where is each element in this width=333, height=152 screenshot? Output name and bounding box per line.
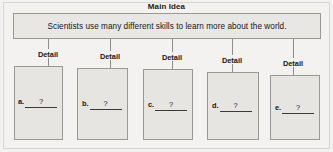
detail-entry-5[interactable]: e. ? bbox=[275, 103, 314, 114]
connector-stub-2 bbox=[110, 60, 111, 68]
connector-stub-4 bbox=[232, 64, 233, 72]
detail-entry-letter-2: b. bbox=[82, 99, 89, 108]
worksheet-page: Main Idea Scientists use many different … bbox=[0, 0, 333, 152]
detail-entry-1[interactable]: a. ? bbox=[18, 97, 57, 108]
connector-line-1 bbox=[48, 39, 49, 49]
detail-entry-2[interactable]: b. ? bbox=[82, 99, 122, 110]
detail-entry-letter-3: c. bbox=[148, 100, 154, 109]
detail-entry-3[interactable]: c. ? bbox=[148, 100, 187, 111]
detail-entry-letter-4: d. bbox=[212, 101, 219, 110]
connector-stub-5 bbox=[293, 67, 294, 75]
connector-stub-1 bbox=[48, 58, 49, 66]
detail-answer-blank-5[interactable]: ? bbox=[282, 103, 314, 114]
connector-line-5 bbox=[293, 39, 294, 58]
connector-line-3 bbox=[172, 39, 173, 52]
connector-stub-3 bbox=[172, 61, 173, 69]
connector-line-4 bbox=[232, 39, 233, 55]
detail-answer-blank-3[interactable]: ? bbox=[155, 100, 187, 111]
connector-line-2 bbox=[110, 39, 111, 51]
detail-entry-4[interactable]: d. ? bbox=[212, 101, 252, 112]
main-idea-box: Scientists use many different skills to … bbox=[13, 13, 321, 39]
page-title: Main Idea bbox=[0, 2, 333, 11]
detail-answer-blank-2[interactable]: ? bbox=[90, 99, 122, 110]
detail-entry-letter-1: a. bbox=[18, 97, 24, 106]
detail-entry-letter-5: e. bbox=[275, 103, 281, 112]
detail-answer-blank-4[interactable]: ? bbox=[220, 101, 252, 112]
main-idea-text: Scientists use many different skills to … bbox=[48, 22, 287, 31]
detail-answer-blank-1[interactable]: ? bbox=[25, 97, 57, 108]
